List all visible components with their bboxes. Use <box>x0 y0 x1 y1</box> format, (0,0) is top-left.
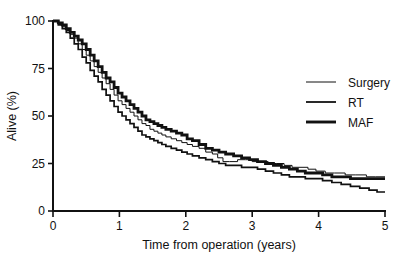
y-tick-label-25: 25 <box>32 157 46 171</box>
curve-maf <box>53 21 385 179</box>
legend-layer: SurgeryRTMAF <box>306 76 390 130</box>
legend-label-surgery: Surgery <box>348 76 390 90</box>
legend-label-maf: MAF <box>348 116 373 130</box>
x-axis-title: Time from operation (years) <box>142 238 296 252</box>
y-tick-label-50: 50 <box>32 109 46 123</box>
x-tick-label-5: 5 <box>382 219 389 233</box>
curve-rt <box>53 21 385 192</box>
chart-canvas: Time from operation (years)Alive (%) 100… <box>0 0 410 267</box>
ticks-layer: 1007550250012345 <box>25 14 389 233</box>
x-tick-label-2: 2 <box>182 219 189 233</box>
y-axis-title: Alive (%) <box>5 91 19 141</box>
x-tick-label-4: 4 <box>315 219 322 233</box>
axes-layer: Time from operation (years)Alive (%) <box>5 21 385 252</box>
x-tick-label-3: 3 <box>249 219 256 233</box>
y-tick-label-75: 75 <box>32 62 46 76</box>
curves-layer <box>53 21 385 192</box>
y-tick-label-0: 0 <box>38 204 45 218</box>
survival-curve-figure: Time from operation (years)Alive (%) 100… <box>0 0 410 267</box>
x-tick-label-0: 0 <box>50 219 57 233</box>
x-tick-label-1: 1 <box>116 219 123 233</box>
legend-label-rt: RT <box>348 96 364 110</box>
y-tick-label-100: 100 <box>25 14 45 28</box>
